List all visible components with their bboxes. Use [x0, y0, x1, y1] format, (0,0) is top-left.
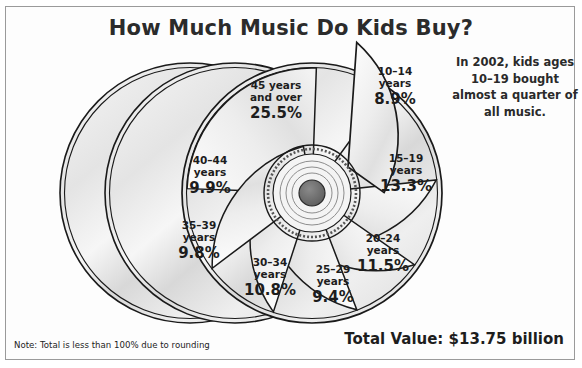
total-value-text: Total Value: $13.75 billion [344, 330, 564, 348]
cd-center-hub [264, 145, 360, 241]
slice-label-25-29: 25–29 years 9.4% [302, 264, 364, 305]
footnote-text: Note: Total is less than 100% due to rou… [14, 340, 210, 350]
slice-label-30-34: 30–34 years 10.8% [237, 257, 303, 298]
chart-container: How Much Music Do Kids Buy? [0, 0, 582, 368]
callout-annotation: In 2002, kids ages 10–19 bought almost a… [452, 54, 578, 121]
slice-label-35-39: 35–39 years 9.8% [166, 220, 232, 261]
slice-label-40-44: 40–44 years 9.9% [177, 155, 243, 196]
slice-label-45-and-over: 45 years and over 25.5% [228, 80, 324, 121]
slice-label-15-19: 15–19 years 13.3% [375, 153, 437, 194]
slice-label-10-14: 10–14 years 8.9% [364, 66, 426, 107]
